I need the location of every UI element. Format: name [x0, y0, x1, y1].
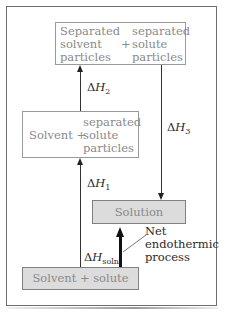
- solution-label: Solution: [93, 206, 185, 219]
- frame-shadow: [8, 307, 218, 309]
- separated-solute-text: separated solute particles: [132, 25, 190, 64]
- dhsoln-label: ΔHsoln: [84, 250, 119, 266]
- dh2-arrow-line: [80, 72, 81, 111]
- solvent-plus-text: Solvent +: [29, 129, 86, 142]
- dh2-arrowhead-icon: [77, 65, 83, 72]
- solvent-solute-label: Solvent + solute: [23, 272, 138, 285]
- dh1-label: ΔH1: [87, 176, 110, 192]
- dh3-label: ΔH3: [167, 120, 190, 136]
- separated-particles-box: Separated solvent particles + separated …: [55, 22, 186, 65]
- text-line: particles: [60, 51, 120, 64]
- solution-box: Solution: [92, 200, 186, 224]
- net-endothermic-annotation: Net endothermic process: [145, 225, 219, 264]
- dh2-label: ΔH2: [87, 80, 110, 96]
- plus-sign: +: [121, 38, 131, 51]
- text-line: process: [145, 251, 219, 264]
- solvent-separated-solute-box: Solvent + separated solute particles: [22, 111, 139, 158]
- separated-solute-text: separated solute particles: [83, 116, 141, 155]
- separated-solvent-text: Separated solvent particles: [60, 25, 120, 64]
- dh1-arrow-line: [80, 165, 81, 267]
- text-line: particles: [83, 142, 141, 155]
- dh3-arrowhead-icon: [158, 193, 164, 200]
- dh3-arrow-line: [161, 65, 162, 193]
- text-line: particles: [132, 51, 190, 64]
- solvent-solute-box: Solvent + solute: [22, 267, 139, 290]
- dh1-arrowhead-icon: [77, 158, 83, 165]
